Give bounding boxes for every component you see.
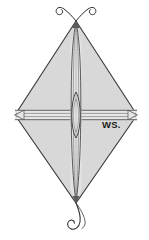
bottom-tail-group (68, 196, 86, 229)
ws-label: WS. (102, 119, 121, 130)
top-tails-group (56, 7, 96, 28)
kite-diagram-svg: WS. (0, 0, 149, 240)
top-tail-left-streamer (56, 7, 76, 21)
kite-figure: WS. (0, 0, 149, 240)
spar-crossing-lens-group (72, 92, 80, 138)
top-tail-right-streamer (76, 7, 96, 21)
